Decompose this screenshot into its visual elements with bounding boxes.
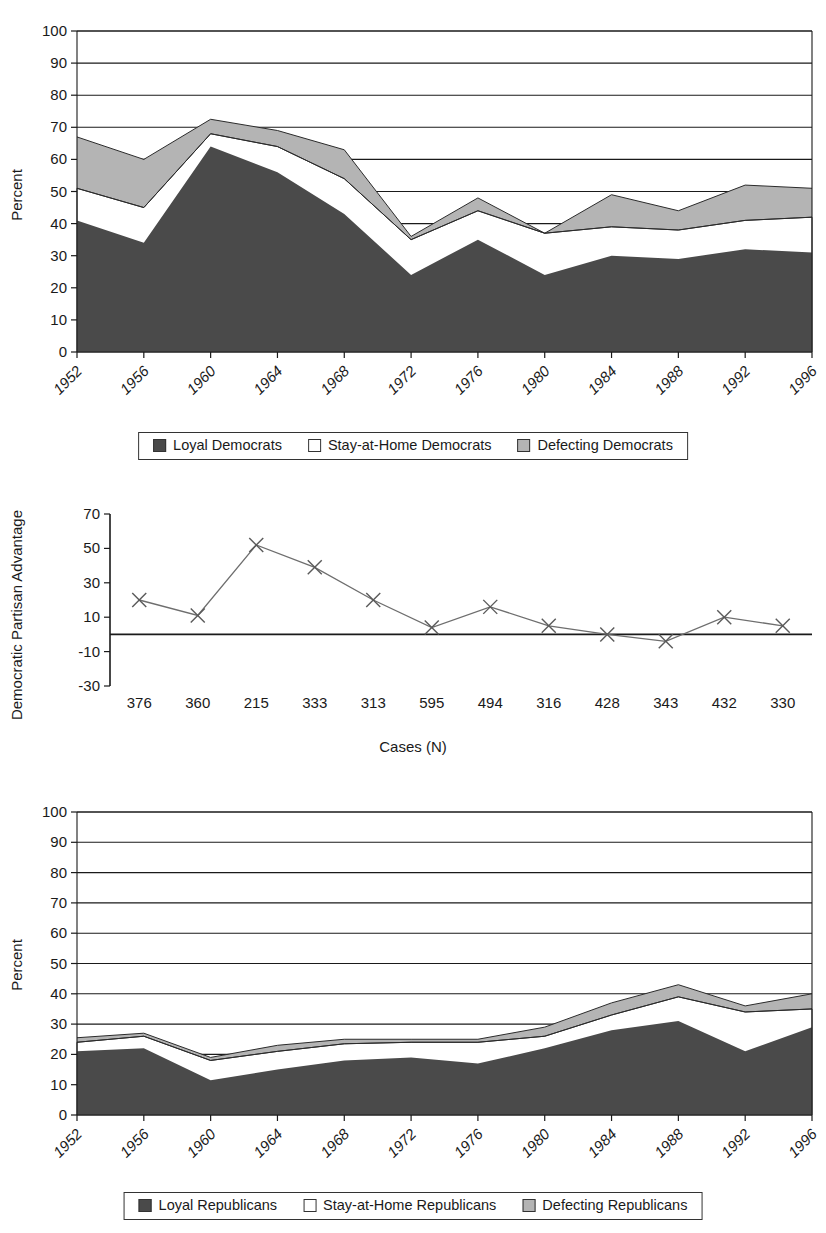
x-tick-labels-advantage: 376360215333313595494316428343432330 <box>127 694 796 711</box>
x-tick-label: 1996 <box>785 1125 821 1161</box>
legend-swatch-loyal-icon <box>139 1199 152 1212</box>
panel-republicans: 0102030405060708090100 19521956196019641… <box>0 790 826 1233</box>
panel-democratic-partisan-advantage: -30-1010305070 3763602153333135954943164… <box>0 470 826 790</box>
x-tick-label: 1984 <box>584 362 620 398</box>
x-tick-label: 1980 <box>517 1125 553 1161</box>
x-tick-label: 1964 <box>250 1125 286 1161</box>
y-tick-label: 10 <box>50 311 67 328</box>
x-tick-label: 1976 <box>450 1125 486 1161</box>
legend-swatch-defecting-icon <box>517 439 530 452</box>
y-tick-label: 10 <box>83 608 100 625</box>
x-tick-label: 1996 <box>785 362 821 398</box>
y-axis-title-advantage: Democratic Partisan Advantage <box>8 510 25 720</box>
y-tick-label: 90 <box>50 54 67 71</box>
y-tick-label: 60 <box>50 924 67 941</box>
y-tick-label: 0 <box>59 1106 67 1123</box>
x-tick-label: 1972 <box>384 1125 420 1161</box>
y-tick-label: 70 <box>50 118 67 135</box>
y-tick-label: 80 <box>50 864 67 881</box>
legend-swatch-stay-at-home-icon <box>303 1199 316 1212</box>
y-axis-title-republicans: Percent <box>8 938 25 991</box>
x-tick-label: 1964 <box>250 362 286 398</box>
chart-republicans: 0102030405060708090100 19521956196019641… <box>0 790 826 1185</box>
legend-entry-loyal-democrats: Loyal Democrats <box>153 438 282 453</box>
y-axis-title-democrats: Percent <box>8 168 25 221</box>
x-tick-label: 1952 <box>50 362 86 398</box>
legend-swatch-loyal-icon <box>153 439 166 452</box>
chart-advantage: -30-1010305070 3763602153333135954943164… <box>0 470 826 790</box>
x-tick-label: 1968 <box>317 1125 353 1161</box>
y-tick-label: 100 <box>42 22 67 39</box>
x-tick-label-cases: 494 <box>478 694 503 711</box>
y-tick-label: 10 <box>50 1076 67 1093</box>
legend-entry-loyal-republicans: Loyal Republicans <box>139 1198 278 1213</box>
y-tick-label: 20 <box>50 1045 67 1062</box>
x-tick-labels-democrats: 1952195619601964196819721976198019841988… <box>50 352 821 398</box>
legend-democrats: Loyal Democrats Stay-at-Home Democrats D… <box>138 432 688 460</box>
x-tick-label: 1952 <box>50 1125 86 1161</box>
y-tick-label: 50 <box>50 183 67 200</box>
x-tick-label-cases: 432 <box>712 694 737 711</box>
x-tick-label: 1976 <box>450 362 486 398</box>
y-tick-label: 50 <box>50 955 67 972</box>
legend-swatch-stay-at-home-icon <box>308 439 321 452</box>
stacked-areas-democrats <box>77 119 812 352</box>
x-tick-label-cases: 428 <box>595 694 620 711</box>
stacked-areas-republicans <box>77 985 812 1115</box>
y-tick-label: 60 <box>50 150 67 167</box>
y-tick-label: 70 <box>83 505 100 522</box>
x-tick-label: 1988 <box>651 362 687 398</box>
y-tick-label: 70 <box>50 894 67 911</box>
x-tick-label: 1968 <box>317 362 353 398</box>
x-tick-label: 1992 <box>718 362 754 398</box>
x-tick-labels-republicans: 1952195619601964196819721976198019841988… <box>50 1115 821 1161</box>
y-tick-labels-advantage: -30-1010305070 <box>78 505 110 694</box>
x-tick-label: 1956 <box>116 1125 152 1161</box>
y-tick-label: -30 <box>78 677 100 694</box>
x-tick-label: 1960 <box>183 1125 219 1161</box>
y-tick-label: 50 <box>83 539 100 556</box>
y-tick-label: 20 <box>50 279 67 296</box>
x-tick-label-cases: 376 <box>127 694 152 711</box>
legend-label-stay-at-home-republicans: Stay-at-Home Republicans <box>323 1198 496 1213</box>
axis-frame-advantage <box>110 514 812 686</box>
x-tick-label: 1992 <box>718 1125 754 1161</box>
three-panel-figure: 0102030405060708090100 19521956196019641… <box>0 0 826 1233</box>
line-series-advantage <box>139 545 783 641</box>
x-tick-label-cases: 343 <box>653 694 678 711</box>
legend-label-loyal-republicans: Loyal Republicans <box>159 1198 278 1213</box>
legend-entry-defecting-democrats: Defecting Democrats <box>517 438 672 453</box>
y-tick-label: 40 <box>50 985 67 1002</box>
legend-entry-stay-at-home-democrats: Stay-at-Home Democrats <box>308 438 492 453</box>
x-tick-label-cases: 360 <box>185 694 210 711</box>
x-tick-label-cases: 313 <box>361 694 386 711</box>
legend-label-defecting-democrats: Defecting Democrats <box>537 438 672 453</box>
x-tick-label-cases: 333 <box>302 694 327 711</box>
x-tick-label: 1988 <box>651 1125 687 1161</box>
legend-label-loyal-democrats: Loyal Democrats <box>173 438 282 453</box>
data-point-markers-advantage <box>132 538 790 648</box>
legend-republicans: Loyal Republicans Stay-at-Home Republica… <box>124 1192 703 1220</box>
x-tick-label: 1984 <box>584 1125 620 1161</box>
y-tick-labels-republicans: 0102030405060708090100 <box>42 803 77 1123</box>
x-tick-label-cases: 316 <box>536 694 561 711</box>
y-tick-label: 100 <box>42 803 67 820</box>
legend-label-defecting-republicans: Defecting Republicans <box>542 1198 687 1213</box>
x-tick-label: 1972 <box>384 362 420 398</box>
x-tick-label-cases: 215 <box>244 694 269 711</box>
y-tick-label: 80 <box>50 86 67 103</box>
y-tick-label: 30 <box>83 574 100 591</box>
x-axis-title-advantage: Cases (N) <box>379 738 447 755</box>
y-tick-label: 30 <box>50 1015 67 1032</box>
y-tick-label: -10 <box>78 643 100 660</box>
y-tick-label: 90 <box>50 833 67 850</box>
y-tick-label: 0 <box>59 343 67 360</box>
x-tick-label: 1960 <box>183 362 219 398</box>
y-tick-label: 40 <box>50 215 67 232</box>
x-tick-label-cases: 595 <box>419 694 444 711</box>
panel-democrats: 0102030405060708090100 19521956196019641… <box>0 0 826 470</box>
legend-entry-defecting-republicans: Defecting Republicans <box>522 1198 687 1213</box>
y-tick-label: 30 <box>50 247 67 264</box>
chart-democrats: 0102030405060708090100 19521956196019641… <box>0 0 826 420</box>
x-tick-label: 1956 <box>116 362 152 398</box>
